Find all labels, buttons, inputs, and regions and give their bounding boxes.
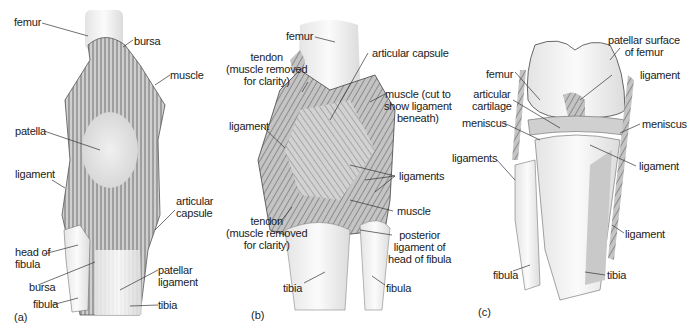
label-bursa-bottom-a: bursa [29, 281, 56, 293]
label-tibia-c: tibia [607, 269, 626, 281]
label-articular-cartilage-c: articular cartilage [472, 88, 512, 112]
label-bursa-top-a: bursa [134, 35, 161, 47]
label-ligament-a: ligament [15, 168, 55, 180]
label-fibula-b: fibula [386, 282, 411, 294]
label-tibia-a: tibia [158, 299, 177, 311]
label-meniscus-right-c: meniscus [642, 118, 687, 130]
label-tendon-bottom-b: tendon (muscle removed for clarity) [226, 215, 307, 251]
label-meniscus-left-c: meniscus [462, 117, 507, 129]
panel-tag-c: (c) [478, 306, 491, 318]
label-muscle-a: muscle [170, 69, 204, 81]
label-ligaments-c: ligaments [452, 152, 497, 164]
label-tendon-top-b: tendon (muscle removed for clarity) [226, 51, 307, 87]
label-ligament-lower-c: ligament [625, 228, 665, 240]
label-femur-a: femur [14, 16, 41, 28]
label-ligament-mid-c: ligament [639, 160, 679, 172]
label-articular-capsule-a: articular capsule [176, 195, 213, 219]
label-patella-a: patella [15, 125, 46, 137]
knee-anatomy-artwork [0, 0, 695, 328]
label-ligament-b: ligament [229, 120, 269, 132]
label-articular-capsule-b: articular capsule [372, 47, 449, 59]
label-fibula-c: fibula [493, 269, 518, 281]
label-tibia-b: tibia [283, 282, 302, 294]
label-ligaments-b: ligaments [399, 170, 444, 182]
label-femur-c: femur [486, 68, 513, 80]
label-head-of-fibula-a: head of fibula [15, 246, 50, 270]
label-patellar-ligament-a: patellar ligament [158, 264, 198, 288]
label-muscle-cut-b: muscle (cut to show ligament beneath) [384, 88, 452, 124]
label-posterior-ligament-b: posterior ligament of head of fibula [388, 229, 451, 265]
label-ligament-top-c: ligament [640, 69, 680, 81]
label-fibula-a: fibula [33, 298, 58, 310]
label-femur-b: femur [286, 30, 313, 42]
label-patellar-surface-c: patellar surface of femur [608, 34, 680, 58]
panel-tag-b: (b) [251, 309, 264, 321]
label-muscle-b: muscle [397, 205, 431, 217]
panel-c-drawing [512, 41, 634, 300]
panel-tag-a: (a) [14, 311, 27, 323]
